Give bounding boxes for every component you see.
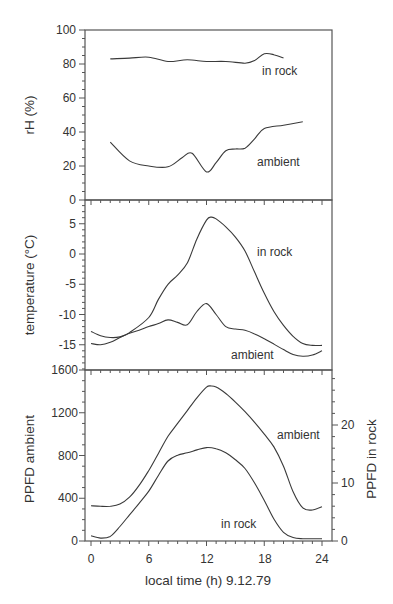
temp-tick-5: 5: [69, 217, 76, 231]
x-tick-24: 24: [315, 552, 329, 566]
curve-temperature-in-rock: [91, 217, 322, 345]
rh-tick-80: 80: [63, 57, 77, 71]
temp-tick-minus10: -10: [59, 308, 77, 322]
rh-in-rock-label: in rock: [262, 64, 298, 78]
temp-tick-0: 0: [69, 247, 76, 261]
x-tick-18: 18: [258, 552, 272, 566]
curves: [91, 53, 322, 538]
ppfd-ambient-axis-title: PPFD ambient: [22, 415, 37, 503]
ppfd-rock-tick-20: 20: [341, 418, 355, 432]
temp-tick-minus15: -15: [59, 338, 77, 352]
ppfd-tick-800: 800: [58, 449, 78, 463]
rh-axis-title: rH (%): [22, 96, 37, 135]
axis-ticks: [79, 30, 338, 546]
ppfd-tick-1200: 1200: [51, 406, 78, 420]
rh-tick-60: 60: [63, 91, 77, 105]
ppfd-rock-tick-10: 10: [341, 476, 355, 490]
temp-in-rock-label: in rock: [257, 245, 293, 259]
curve-ppfd-in-rock: [91, 448, 322, 539]
rh-tick-100: 100: [56, 23, 76, 37]
rh-tick-0: 0: [69, 193, 76, 207]
ppfd-rock-tick-0: 0: [341, 534, 348, 548]
ppfd-rock-axis-title: PPFD in rock: [364, 419, 379, 499]
figure: 100 80 60 40 20 0 rH (%) in rock ambient…: [0, 0, 393, 604]
x-tick-0: 0: [88, 552, 95, 566]
ppfd-tick-400: 400: [58, 491, 78, 505]
ppfd-ambient-label: ambient: [277, 428, 320, 442]
x-tick-6: 6: [146, 552, 153, 566]
rh-tick-40: 40: [63, 125, 77, 139]
temp-tick-minus5: -5: [65, 277, 76, 291]
ppfd-tick-1600: 1600: [51, 363, 78, 377]
curve-rh-in-rock: [110, 53, 283, 63]
temperature-axis-title: temperature (°C): [22, 235, 37, 336]
ppfd-tick-0: 0: [71, 534, 78, 548]
ppfd-in-rock-label: in rock: [221, 517, 257, 531]
rh-ambient-label: ambient: [257, 155, 300, 169]
bottom-panel-frame: [85, 370, 332, 541]
middle-panel-frame: [85, 200, 332, 370]
temp-ambient-label: ambient: [231, 348, 274, 362]
x-axis-title: local time (h) 9.12.79: [145, 573, 271, 588]
top-panel-frame: [85, 30, 332, 200]
rh-tick-20: 20: [63, 159, 77, 173]
x-tick-12: 12: [200, 552, 214, 566]
